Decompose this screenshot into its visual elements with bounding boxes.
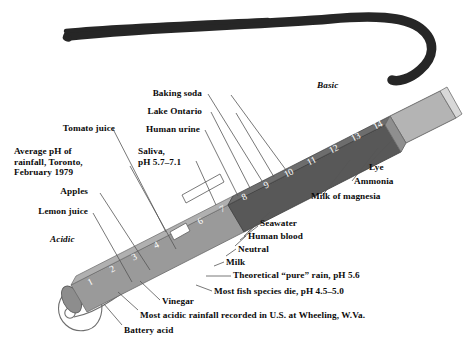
annotation-battery-acid: Battery acid — [124, 325, 173, 336]
annotation-tomato-juice: Tomato juice — [10, 123, 115, 134]
annotation-most-acidic-rainfall: Most acidic rainfall recorded in U.S. at… — [140, 310, 365, 321]
annotation-milk-of-magnesia: Milk of magnesia — [311, 191, 380, 202]
region-label-basic: Basic — [317, 80, 338, 91]
annotation-saliva: Saliva, pH 5.7–7.1 — [138, 146, 181, 167]
annotation-neutral: Neutral — [238, 244, 269, 255]
annotation-most-fish-species-die: Most fish species die, pH 4.5–5.0 — [214, 286, 344, 297]
annotation-lake-ontario: Lake Ontario — [110, 106, 202, 117]
annotation-seawater: Seawater — [260, 218, 297, 229]
annotation-human-blood: Human blood — [248, 231, 303, 242]
annotation-human-urine: Human urine — [108, 124, 200, 135]
annotation-lemon-juice: Lemon juice — [10, 206, 88, 217]
annotation-theoretical-pure-rain: Theoretical “pure” rain, pH 5.6 — [233, 270, 360, 281]
annotation-baking-soda: Baking soda — [110, 88, 202, 99]
annotation-ammonia: Ammonia — [354, 176, 394, 187]
annotation-milk: Milk — [226, 257, 245, 268]
annotation-vinegar: Vinegar — [162, 296, 194, 307]
annotation-apples: Apples — [10, 186, 88, 197]
indicator-tab-lower — [182, 174, 224, 203]
ph-scale-figure: 1 2 3 4 5 6 7 8 9 10 11 12 13 14 Acidic … — [0, 0, 464, 348]
strip-end-cap-graphic — [385, 87, 462, 152]
annotation-lye: Lye — [369, 162, 384, 173]
annotation-toronto-rainfall: Average pH of rainfall, Toronto, Februar… — [14, 146, 83, 178]
region-label-acidic: Acidic — [50, 234, 75, 245]
cord-graphic — [64, 17, 432, 81]
